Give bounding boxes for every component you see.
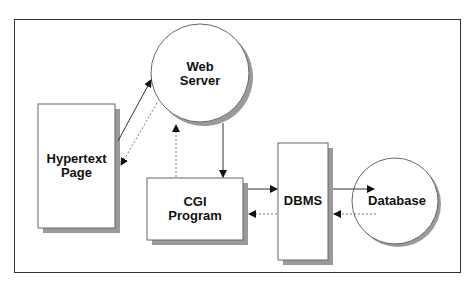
web-server-label-line2: Server: [170, 74, 230, 88]
cgi-program-label: CGI Program: [147, 195, 243, 223]
web-server-label-line1: Web: [170, 60, 230, 74]
web-server-label: Web Server: [170, 60, 230, 88]
cgi-program-label-line2: Program: [147, 209, 243, 223]
edge-webserver-to-hypertext: [121, 103, 157, 165]
database-label: Database: [355, 194, 439, 208]
hypertext-page-label: Hypertext Page: [38, 152, 115, 180]
hypertext-page-label-line1: Hypertext: [38, 152, 115, 166]
dbms-label: DBMS: [278, 194, 328, 208]
edge-hypertext-to-webserver: [118, 80, 151, 141]
diagram-canvas: [0, 0, 476, 285]
cgi-program-label-line1: CGI: [147, 195, 243, 209]
hypertext-page-label-line2: Page: [38, 166, 115, 180]
